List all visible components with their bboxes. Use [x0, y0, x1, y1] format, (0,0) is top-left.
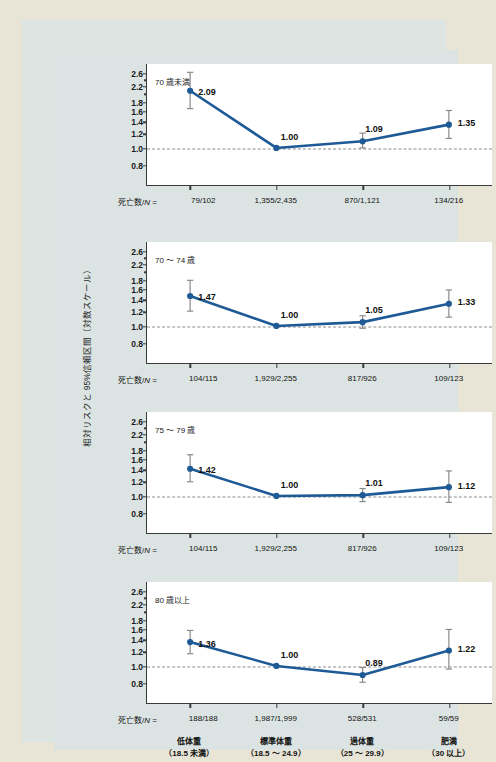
- plot-area: 2.62.21.81.61.41.21.00.880 歳以上1.361.000.…: [146, 582, 492, 704]
- data-point: [273, 493, 279, 499]
- deaths-n-value: 817/926: [348, 374, 377, 383]
- data-point: [446, 484, 452, 490]
- series-line: [190, 296, 449, 326]
- category-name: 肥満: [427, 736, 470, 748]
- x-tick-mark: [449, 533, 450, 538]
- x-tick-mark: [363, 703, 364, 708]
- x-tick-mark: [449, 363, 450, 368]
- deaths-n-value: 59/59: [439, 714, 459, 723]
- x-tick-mark: [449, 185, 450, 190]
- deaths-n-prefix: 死亡数/N =: [118, 544, 157, 555]
- x-axis-category: 過体重（25 ～ 29.9）: [336, 736, 389, 760]
- data-point-label: 1.01: [365, 478, 383, 488]
- x-axis-category: 標準体重（18.5 ～ 24.9）: [246, 736, 306, 760]
- data-point: [360, 138, 366, 144]
- figure-inner-panel: 相対リスクと 95%信頼区間（対数スケール） 2.62.21.81.61.41.…: [54, 50, 458, 750]
- x-tick-mark: [276, 533, 277, 538]
- deaths-n-value: 1,929/2,255: [255, 374, 297, 383]
- plot-area: 2.62.21.81.61.41.21.00.870 ～ 74 歳1.471.0…: [146, 242, 492, 364]
- deaths-n-value: 134/216: [434, 196, 463, 205]
- deaths-n-prefix: 死亡数/N =: [118, 196, 157, 207]
- x-tick-mark: [190, 703, 191, 708]
- deaths-n-value: 1,929/2,255: [255, 544, 297, 553]
- deaths-n-value: 109/123: [434, 544, 463, 553]
- data-point: [446, 122, 452, 128]
- data-point: [446, 301, 452, 307]
- data-point-label: 1.00: [281, 650, 299, 660]
- data-point-label: 0.89: [365, 658, 383, 668]
- data-point-label: 1.22: [458, 644, 476, 654]
- data-point-label: 2.09: [198, 87, 216, 97]
- series-line: [190, 91, 449, 148]
- category-range: （18.5 未満）: [164, 748, 214, 760]
- deaths-n-prefix: 死亡数/N =: [118, 374, 157, 385]
- data-point: [446, 647, 452, 653]
- category-name: 低体重: [164, 736, 214, 748]
- deaths-n-value: 1,355/2,435: [255, 196, 297, 205]
- x-tick-mark: [190, 363, 191, 368]
- data-point-label: 1.42: [198, 465, 216, 475]
- data-point: [360, 319, 366, 325]
- series-graphic: [147, 242, 492, 363]
- plot-area: 2.62.21.81.61.41.21.00.870 歳未満2.091.001.…: [146, 64, 492, 186]
- x-tick-mark: [449, 703, 450, 708]
- chart-panel-1: 2.62.21.81.61.41.21.00.870 歳未満2.091.001.…: [110, 50, 496, 228]
- data-point: [273, 323, 279, 329]
- x-tick-mark: [363, 363, 364, 368]
- deaths-n-value: 528/531: [348, 714, 377, 723]
- category-range: （25 ～ 29.9）: [336, 748, 389, 760]
- deaths-n-value: 1,987/1,999: [255, 714, 297, 723]
- data-point-label: 1.05: [365, 305, 383, 315]
- data-point-label: 1.00: [281, 480, 299, 490]
- x-tick-mark: [190, 185, 191, 190]
- deaths-n-row: 死亡数/N = 104/1151,929/2,255817/926109/123: [146, 544, 492, 558]
- data-point: [187, 88, 193, 94]
- data-point-label: 1.35: [458, 118, 476, 128]
- category-name: 過体重: [336, 736, 389, 748]
- data-point: [273, 145, 279, 151]
- panel-stack: 2.62.21.81.61.41.21.00.870 歳未満2.091.001.…: [110, 50, 496, 762]
- data-point: [187, 466, 193, 472]
- x-tick-mark: [363, 533, 364, 538]
- data-point: [273, 663, 279, 669]
- data-point: [187, 639, 193, 645]
- data-point: [187, 293, 193, 299]
- x-tick-mark: [190, 533, 191, 538]
- data-point-label: 1.47: [198, 292, 216, 302]
- deaths-n-value: 104/115: [189, 544, 217, 553]
- deaths-n-prefix: 死亡数/N =: [118, 714, 157, 725]
- category-range: （18.5 ～ 24.9）: [246, 748, 306, 760]
- figure-frame: 相対リスクと 95%信頼区間（対数スケール） 2.62.21.81.61.41.…: [22, 20, 446, 742]
- series-graphic: [147, 64, 492, 185]
- category-name: 標準体重: [246, 736, 306, 748]
- x-tick-mark: [276, 185, 277, 190]
- x-axis-category: 低体重（18.5 未満）: [164, 736, 214, 760]
- data-point-label: 1.09: [365, 124, 383, 134]
- deaths-n-value: 817/926: [348, 544, 377, 553]
- deaths-n-value: 79/102: [191, 196, 215, 205]
- data-point: [360, 492, 366, 498]
- plot-area: 2.62.21.81.61.41.21.00.875 ～ 79 歳1.421.0…: [146, 412, 492, 534]
- deaths-n-row: 死亡数/N = 79/1021,355/2,435870/1,121134/21…: [146, 196, 492, 210]
- chart-panel-3: 2.62.21.81.61.41.21.00.875 ～ 79 歳1.421.0…: [110, 398, 496, 568]
- chart-panel-4: 2.62.21.81.61.41.21.00.880 歳以上1.361.000.…: [110, 568, 496, 762]
- series-line: [190, 469, 449, 496]
- x-tick-mark: [276, 363, 277, 368]
- data-point-label: 1.00: [281, 132, 299, 142]
- x-axis-category: 肥満（30 以上）: [427, 736, 470, 760]
- x-tick-mark: [363, 185, 364, 190]
- category-range: （30 以上）: [427, 748, 470, 760]
- data-point-label: 1.36: [198, 639, 216, 649]
- deaths-n-value: 188/188: [189, 714, 218, 723]
- deaths-n-value: 870/1,121: [344, 196, 380, 205]
- chart-panel-2: 2.62.21.81.61.41.21.00.870 ～ 74 歳1.471.0…: [110, 228, 496, 398]
- deaths-n-value: 109/123: [434, 374, 463, 383]
- deaths-n-value: 104/115: [189, 374, 217, 383]
- data-point-label: 1.12: [458, 481, 476, 491]
- data-point-label: 1.33: [458, 297, 476, 307]
- data-point-label: 1.00: [281, 310, 299, 320]
- y-axis-title: 相対リスクと 95%信頼区間（対数スケール）: [80, 246, 92, 466]
- series-line: [190, 642, 449, 675]
- data-point: [360, 672, 366, 678]
- x-tick-mark: [276, 703, 277, 708]
